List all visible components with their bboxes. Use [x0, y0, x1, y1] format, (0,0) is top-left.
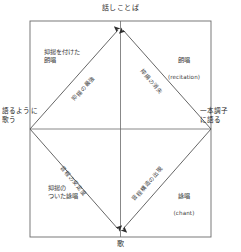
quadrant-label-top-right: 朗唱 (recitation): [158, 48, 210, 81]
quadrant-bottom-right-en: (chant): [174, 210, 195, 216]
quadrant-label-bottom-right: 詠唱 (chant): [158, 184, 210, 217]
diagram-canvas: 話しことば 歌 語るように 歌う 一本調子 に語る 抑揚を付けた 朗唱 朗唱 (…: [0, 0, 241, 252]
right-axis-label: 一本調子 に語る: [200, 107, 240, 124]
quadrant-bottom-right-jp: 詠唱: [178, 192, 190, 199]
top-axis-title: 話しことば: [0, 2, 241, 12]
left-axis-label: 語るように 歌う: [2, 107, 40, 124]
bottom-axis-title: 歌: [0, 238, 241, 248]
quadrant-top-right-jp: 朗唱: [178, 56, 190, 63]
quadrant-top-right-en: (recitation): [168, 74, 200, 80]
diagonal-upper-left: [30, 30, 118, 129]
quadrant-label-top-left: 抑揚を付けた 朗唱: [44, 48, 96, 64]
